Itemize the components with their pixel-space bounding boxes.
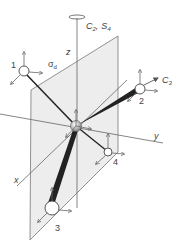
atom-1-label: 1	[11, 60, 16, 70]
z-axis-label: z	[65, 47, 71, 57]
sigma-d-label: σd	[48, 59, 57, 70]
x-axis-label: x	[13, 175, 19, 185]
atom-3-label: 3	[55, 223, 60, 233]
atom-2-label: 2	[139, 96, 144, 106]
atom-2-y-arrow-icon	[145, 90, 157, 91]
atom-1-x-arrow-icon	[11, 75, 20, 84]
tetrahedral-molecule-symmetry-diagram: z y x C2,S4 σd C3 1 2 3 4	[0, 0, 183, 251]
atom-1-y-arrow-icon	[29, 72, 42, 73]
svg-text:C2,S4: C2,S4	[86, 21, 111, 32]
svg-text:σd: σd	[48, 59, 57, 70]
atom-4-label: 4	[113, 157, 118, 167]
y-axis-label: y	[153, 131, 159, 141]
c2-s4-label: C2,S4	[86, 21, 111, 32]
atom-3-y-arrow-icon	[59, 210, 71, 211]
c3-label: C3	[162, 75, 173, 86]
svg-text:C3: C3	[162, 75, 173, 86]
